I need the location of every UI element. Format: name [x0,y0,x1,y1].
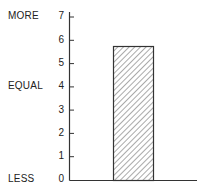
y-axis [70,12,75,181]
bar [114,47,154,181]
chart-canvas [0,0,208,194]
